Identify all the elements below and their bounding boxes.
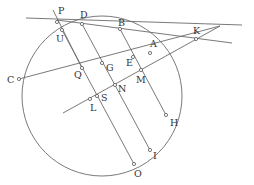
label-a: A [149, 38, 157, 49]
point-n [113, 83, 116, 86]
label-q: Q [74, 69, 82, 80]
point-i [148, 148, 151, 151]
label-d: D [80, 9, 88, 20]
label-c: C [7, 74, 14, 85]
point-d [80, 22, 83, 25]
label-h: H [170, 117, 178, 128]
label-s: S [101, 92, 108, 103]
line-C-K [19, 26, 220, 79]
label-p: P [58, 5, 65, 16]
point-g [100, 61, 103, 64]
label-e: E [126, 57, 133, 68]
point-h [164, 113, 167, 116]
label-o: O [134, 168, 142, 179]
point-m [139, 68, 142, 71]
point-s [95, 94, 98, 97]
label-l: L [90, 102, 97, 113]
label-g: G [106, 62, 114, 73]
point-o [132, 162, 135, 165]
point-p [55, 20, 58, 23]
label-n: N [118, 83, 126, 94]
label-u: U [56, 33, 64, 44]
point-a [148, 51, 151, 54]
point-u [60, 28, 63, 31]
label-b: B [118, 17, 125, 28]
label-i: I [153, 150, 157, 161]
label-k: K [193, 25, 201, 36]
diagram-canvas: PUDBKAEGQCMNSLHIO [0, 0, 254, 185]
geometry-diagram: PUDBKAEGQCMNSLHIO [0, 0, 254, 185]
point-k [194, 37, 197, 40]
label-m: M [136, 74, 146, 85]
point-l [88, 97, 91, 100]
point-c [17, 77, 20, 80]
